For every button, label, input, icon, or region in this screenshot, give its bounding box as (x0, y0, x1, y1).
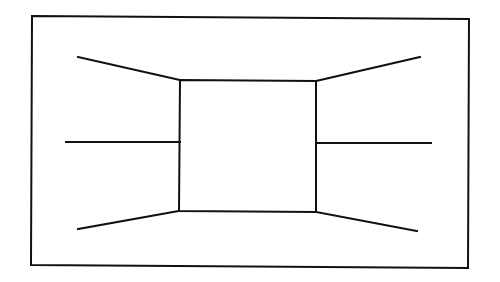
back-wall-rectangle (179, 80, 316, 212)
lower-left-edge (78, 211, 179, 229)
upper-left-edge (78, 57, 180, 80)
perspective-diagram (0, 0, 500, 282)
lower-right-edge (316, 212, 417, 231)
upper-right-edge (316, 57, 420, 81)
perspective-lines (66, 57, 431, 231)
diagram-canvas (0, 0, 500, 282)
